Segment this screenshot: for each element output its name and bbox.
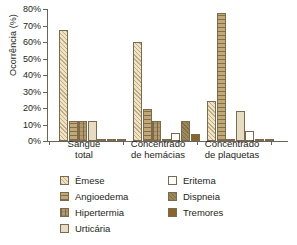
y-tick — [43, 9, 47, 10]
legend-label: Tremores — [183, 207, 223, 218]
y-tick-label: 30% — [23, 87, 41, 96]
legend-label: Eritema — [183, 175, 216, 186]
y-tick — [43, 125, 47, 126]
swatch-tremores-icon — [168, 208, 177, 217]
swatch-hipertermia-icon — [60, 208, 69, 217]
plot-area: 0%10%20%30%40%50%60%70%80% — [47, 9, 288, 142]
y-tick — [43, 108, 47, 109]
swatch-angioedema-icon — [60, 192, 69, 201]
chart-legend: ÊmeseEritemaAngioedemaDispneiaHipertermi… — [60, 172, 275, 236]
legend-label: Êmese — [75, 175, 105, 186]
x-axis-label: Concentrado de hemácias — [120, 138, 196, 160]
bar — [59, 30, 68, 141]
x-axis-label: Sangue total — [46, 138, 122, 160]
legend-item: Êmese — [60, 175, 168, 186]
y-tick — [43, 92, 47, 93]
bar-group — [59, 9, 126, 141]
bar — [236, 111, 245, 141]
swatch-eritema-icon — [168, 176, 177, 185]
legend-item: Urticária — [60, 223, 168, 234]
swatch-emese-icon — [60, 176, 69, 185]
y-tick-label: 10% — [23, 120, 41, 129]
legend-label: Urticária — [75, 223, 110, 234]
y-tick-label: 0% — [28, 137, 41, 146]
legend-item: Eritema — [168, 175, 275, 186]
y-tick-label: 50% — [23, 54, 41, 63]
y-tick-label: 80% — [23, 5, 41, 14]
bar — [217, 13, 226, 141]
y-axis-line — [47, 9, 48, 142]
x-tick — [271, 141, 272, 145]
legend-label: Angioedema — [75, 191, 128, 202]
bar — [143, 109, 152, 141]
bar — [207, 101, 216, 141]
legend-item: Tremores — [168, 207, 275, 218]
bar — [133, 42, 142, 141]
y-tick-label: 40% — [23, 71, 41, 80]
legend-item: Dispneia — [168, 191, 275, 202]
legend-label: Hipertermia — [75, 207, 124, 218]
y-tick-label: 20% — [23, 104, 41, 113]
y-tick — [43, 59, 47, 60]
y-tick-label: 60% — [23, 38, 41, 47]
y-tick — [43, 42, 47, 43]
y-tick — [43, 26, 47, 27]
swatch-urticaria-icon — [60, 224, 69, 233]
swatch-dispneia-icon — [168, 192, 177, 201]
y-tick-label: 70% — [23, 21, 41, 30]
bar-group — [133, 9, 200, 141]
x-axis-label: Concentrado de plaquetas — [194, 138, 270, 160]
bar-group — [207, 9, 274, 141]
y-tick — [43, 75, 47, 76]
legend-item: Hipertermia — [60, 207, 168, 218]
bar-chart-figure: Ocorrência (%) 0%10%20%30%40%50%60%70%80… — [0, 0, 297, 245]
legend-label: Dispneia — [183, 191, 220, 202]
y-axis-title: Ocorrência (%) — [8, 0, 18, 105]
legend-item: Angioedema — [60, 191, 168, 202]
